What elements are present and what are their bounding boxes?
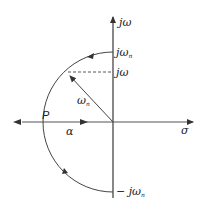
alpha-label: α: [66, 125, 74, 138]
alpha-arrow-icon: [80, 119, 88, 125]
top-intercept-label: jωn: [113, 46, 132, 59]
s-plane-diagram: jω jωn jω ωn P α σ − jωn: [0, 0, 207, 214]
real-axis-left-arrow-icon: [13, 119, 21, 125]
horizontal-axis-label: σ: [181, 124, 189, 137]
vertical-axis-label: jω: [116, 16, 131, 29]
point-p-label: P: [42, 109, 50, 121]
pole-height-label: jω: [113, 66, 128, 79]
bottom-intercept-label: − jωn: [116, 185, 145, 198]
